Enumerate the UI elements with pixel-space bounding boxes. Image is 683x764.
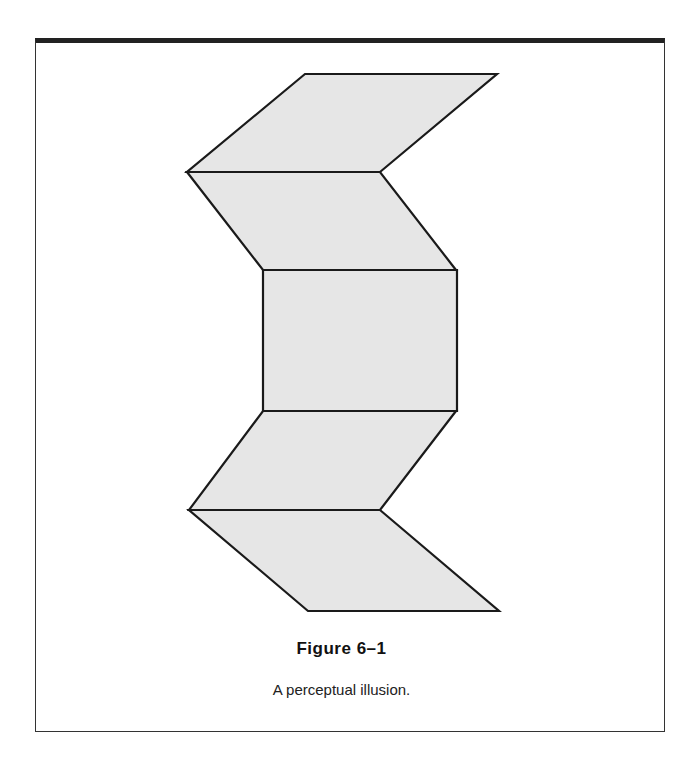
figure-caption: A perceptual illusion. (0, 681, 683, 698)
figure-title: Figure 6–1 (0, 639, 683, 659)
center-rectangle (263, 270, 457, 411)
top-parallelogram (187, 74, 497, 172)
lower-parallelogram (189, 411, 456, 510)
upper-parallelogram (187, 172, 456, 270)
bottom-parallelogram (189, 510, 499, 611)
